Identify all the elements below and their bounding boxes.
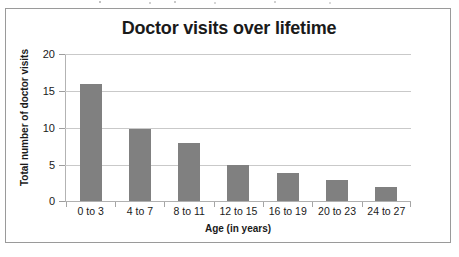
bar-slot (362, 54, 411, 202)
x-label-2: 8 to 11 (165, 205, 214, 217)
x-axis-tick-labels: 0 to 3 4 to 7 8 to 11 12 to 15 16 to 19 … (66, 205, 411, 217)
y-tick-5 (59, 165, 65, 166)
y-tick-label-10: 10 (29, 123, 55, 134)
y-tick-15 (59, 91, 65, 92)
bar-slot (115, 54, 164, 202)
bar-12-to-15[interactable] (227, 165, 249, 202)
y-tick-label-0: 0 (29, 196, 55, 207)
bar-slot (312, 54, 361, 202)
plot-area: 20 15 10 5 0 (65, 54, 411, 202)
bar-4-to-7[interactable] (129, 129, 151, 203)
x-label-3: 12 to 15 (214, 205, 263, 217)
bar-16-to-19[interactable] (277, 173, 299, 202)
bar-slot (263, 54, 312, 202)
chart-frame: Doctor visits over lifetime Total number… (5, 8, 451, 243)
x-label-6: 24 to 27 (362, 205, 411, 217)
y-tick-label-20: 20 (29, 49, 55, 60)
y-tick-label-15: 15 (29, 86, 55, 97)
x-label-5: 20 to 23 (312, 205, 361, 217)
bar-slot (165, 54, 214, 202)
bar-series (66, 54, 411, 202)
bar-slot (66, 54, 115, 202)
y-tick-label-5: 5 (29, 160, 55, 171)
bar-0-to-3[interactable] (80, 84, 102, 202)
bar-24-to-27[interactable] (375, 187, 397, 202)
y-tick-10 (59, 128, 65, 129)
bar-8-to-11[interactable] (178, 143, 200, 202)
y-tick-20 (59, 54, 65, 55)
x-label-0: 0 to 3 (66, 205, 115, 217)
scan-artifact (0, 0, 459, 7)
x-label-4: 16 to 19 (263, 205, 312, 217)
x-axis-title: Age (in years) (65, 223, 411, 234)
x-label-1: 4 to 7 (115, 205, 164, 217)
bar-20-to-23[interactable] (326, 180, 348, 202)
chart-title: Doctor visits over lifetime (6, 18, 452, 39)
bar-slot (214, 54, 263, 202)
